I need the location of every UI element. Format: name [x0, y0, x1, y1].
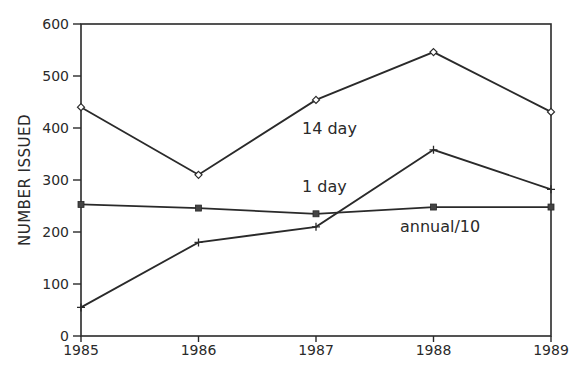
square-marker [313, 211, 319, 217]
diamond-marker [430, 49, 437, 56]
y-tick-label: 500 [42, 68, 69, 84]
x-tick-label: 1985 [63, 342, 99, 358]
series-label: 1 day [302, 177, 347, 196]
y-axis-title: NUMBER ISSUED [16, 114, 34, 246]
square-marker [78, 201, 84, 207]
series-annual-10 [78, 201, 554, 216]
y-tick-label: 300 [42, 172, 69, 188]
diamond-marker [78, 104, 85, 111]
plus-marker [77, 303, 85, 311]
diamond-marker [548, 108, 555, 115]
series-14-day [78, 49, 555, 179]
series-label: annual/10 [400, 217, 480, 236]
y-tick-label: 100 [42, 276, 69, 292]
series-label: 14 day [302, 119, 357, 138]
plus-marker [195, 238, 203, 246]
y-tick-label: 400 [42, 120, 69, 136]
y-tick-label: 600 [42, 16, 69, 32]
plus-marker [547, 185, 555, 193]
square-marker [548, 204, 554, 210]
line-chart: 0100200300400500600 19851986198719881989… [0, 0, 584, 380]
x-tick-label: 1989 [533, 342, 569, 358]
series-1-day [77, 146, 555, 312]
x-tick-label: 1987 [298, 342, 334, 358]
x-tick-label: 1988 [416, 342, 452, 358]
series-line [81, 52, 551, 175]
square-marker [196, 205, 202, 211]
x-axis: 19851986198719881989 [63, 336, 569, 358]
square-marker [431, 204, 437, 210]
x-tick-label: 1986 [181, 342, 217, 358]
y-axis: 0100200300400500600 [42, 16, 81, 344]
y-tick-label: 200 [42, 224, 69, 240]
